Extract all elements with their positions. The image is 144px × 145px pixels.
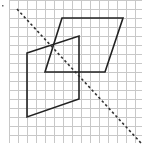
dashed-diagonal-line — [17, 9, 141, 143]
diagram-svg — [0, 0, 144, 145]
symmetry-line — [17, 9, 141, 143]
geometry-diagram — [0, 0, 144, 145]
stray-mark — [2, 5, 4, 7]
stray-dot — [2, 5, 4, 7]
